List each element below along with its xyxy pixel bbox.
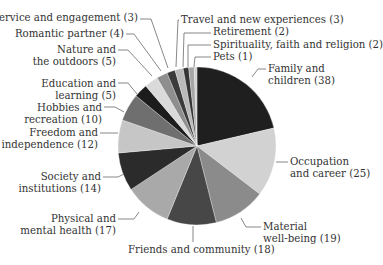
slice-label-line: Family and: [268, 63, 335, 75]
slice-label-line: children (38): [268, 75, 335, 87]
slice-label: Travel and new experiences (3): [181, 14, 344, 26]
slice-label: Nature andthe outdoors (5): [33, 44, 116, 68]
slice-label: Friends and community (18): [128, 244, 275, 256]
pie-slices: [118, 67, 276, 225]
slice-label-line: Pets (1): [213, 51, 252, 63]
slice-label-line: mental health (17): [20, 225, 116, 237]
leader-line: [140, 19, 168, 68]
slice-label-line: recreation (10): [24, 114, 102, 126]
slice-label-line: the outdoors (5): [33, 56, 116, 68]
slice-label: Romantic partner (4): [15, 28, 124, 40]
slice-label-line: Nature and: [33, 44, 116, 56]
slice-label: Pets (1): [213, 51, 252, 63]
leader-line: [118, 212, 139, 219]
slice-label: Hobbies andrecreation (10): [24, 102, 102, 126]
slice-label: Education andlearning (5): [41, 78, 116, 102]
leader-line: [194, 57, 211, 67]
leader-line: [126, 34, 161, 71]
slice-label-line: Service and engagement (3): [0, 12, 138, 24]
slice-label: Society andinstitutions (14): [19, 171, 101, 195]
slice-label-line: Occupation: [290, 156, 370, 168]
leader-line: [241, 218, 261, 227]
slice-label: Physical andmental health (17): [20, 213, 116, 237]
slice-label-line: and career (25): [290, 168, 370, 180]
slice-label-line: institutions (14): [19, 183, 101, 195]
slice-label-line: Retirement (2): [213, 26, 289, 38]
leader-line: [118, 50, 152, 76]
leader-line: [252, 69, 266, 77]
slice-label: Spirituality, faith and religion (2): [213, 39, 383, 51]
leader-line: [104, 107, 124, 112]
leader-line: [176, 20, 179, 67]
leader-line: [118, 83, 137, 94]
slice-label: Retirement (2): [213, 26, 289, 38]
leader-line: [103, 174, 124, 177]
slice-label-line: Spirituality, faith and religion (2): [213, 39, 383, 51]
slice-label-line: Romantic partner (4): [15, 28, 124, 40]
slice-label: Freedom andindependence (12): [2, 127, 98, 151]
leader-line: [188, 45, 211, 67]
slice-label-line: learning (5): [41, 90, 116, 102]
slice-label: Materialwell-being (19): [263, 221, 341, 245]
slice-label-line: Material: [263, 221, 341, 233]
leader-line: [183, 33, 211, 67]
slice-label-line: Society and: [19, 171, 101, 183]
slice-label-line: Freedom and: [2, 127, 98, 139]
slice-label: Family andchildren (38): [268, 63, 335, 87]
slice-label-line: Hobbies and: [24, 102, 102, 114]
slice-label: Service and engagement (3): [0, 12, 138, 24]
slice-label-line: independence (12): [2, 139, 98, 151]
slice-label-line: Education and: [41, 78, 116, 90]
slice-label-line: Travel and new experiences (3): [181, 14, 344, 26]
slice-label: Occupationand career (25): [290, 156, 370, 180]
slice-label-line: Physical and: [20, 213, 116, 225]
slice-label-line: Friends and community (18): [128, 244, 275, 256]
